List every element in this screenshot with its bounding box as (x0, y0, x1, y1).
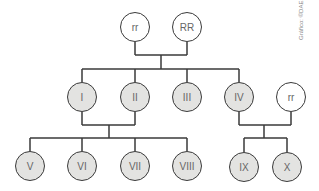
node-X: X (272, 152, 302, 182)
node-label: IV (234, 92, 243, 103)
node-label: II (132, 92, 138, 103)
node-label: III (183, 92, 191, 103)
node-label: rr (288, 92, 295, 103)
node-label: X (284, 162, 291, 173)
node-IV: IV (224, 82, 254, 112)
node-label: IX (239, 162, 248, 173)
node-label: V (27, 161, 34, 172)
node-gen2-rr: rr (276, 82, 306, 112)
node-label: I (81, 92, 84, 103)
node-IX: IX (229, 152, 259, 182)
node-II: II (120, 82, 150, 112)
node-label: VII (129, 161, 141, 172)
node-label: RR (180, 22, 194, 33)
node-label: rr (132, 22, 139, 33)
node-label: VI (77, 161, 86, 172)
node-VI: VI (67, 151, 97, 181)
node-gen1-RR: RR (172, 12, 202, 42)
node-I: I (67, 82, 97, 112)
node-label: VIII (179, 161, 194, 172)
node-gen1-rr: rr (120, 12, 150, 42)
node-III: III (172, 82, 202, 112)
node-VII: VII (120, 151, 150, 181)
credit-text: Gráfico: ©DAE (298, 1, 304, 40)
pedigree-lines (0, 0, 319, 191)
node-VIII: VIII (172, 151, 202, 181)
node-V: V (15, 151, 45, 181)
